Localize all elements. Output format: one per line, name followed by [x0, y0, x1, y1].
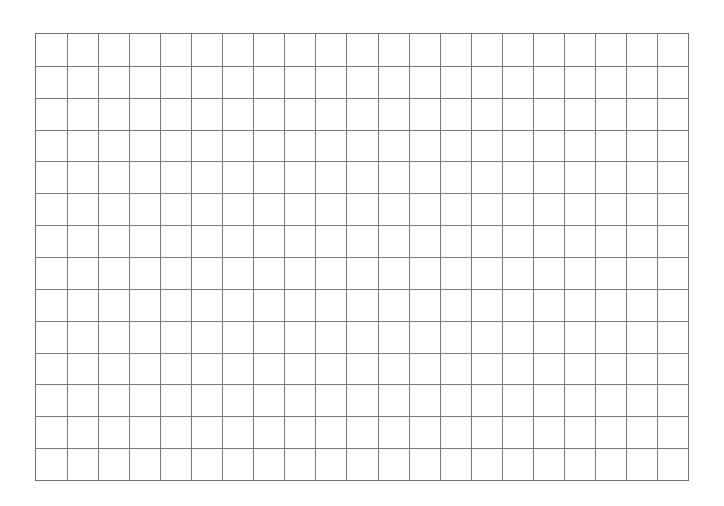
grid-horizontal-line [36, 448, 688, 449]
grid-horizontal-line [36, 130, 688, 131]
grid-horizontal-line [36, 416, 688, 417]
grid-horizontal-line [36, 384, 688, 385]
grid-horizontal-line [36, 321, 688, 322]
grid-horizontal-line [36, 161, 688, 162]
grid-horizontal-line [36, 193, 688, 194]
grid-horizontal-line [36, 66, 688, 67]
grid-horizontal-line [36, 98, 688, 99]
grid-horizontal-line [36, 225, 688, 226]
grid-horizontal-line [36, 353, 688, 354]
grid-paper [35, 33, 689, 481]
grid-horizontal-line [36, 289, 688, 290]
grid-horizontal-line [36, 257, 688, 258]
